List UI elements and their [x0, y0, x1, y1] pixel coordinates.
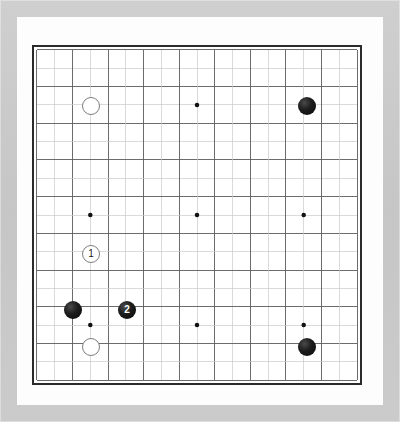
stone-move-number: 2 [124, 305, 129, 315]
white-stone-move-1[interactable]: 1 [82, 245, 100, 263]
black-stone-q16[interactable] [298, 97, 316, 115]
black-stone-q3[interactable] [298, 338, 316, 356]
go-board-screenshot: 12 [0, 0, 400, 422]
go-board[interactable]: 12 [32, 45, 362, 385]
black-stone-c5[interactable] [64, 301, 82, 319]
stones-layer[interactable]: 12 [34, 47, 360, 383]
white-stone-d16[interactable] [82, 97, 100, 115]
black-stone-move-2[interactable]: 2 [118, 301, 136, 319]
white-stone-d3[interactable] [82, 338, 100, 356]
stone-move-number: 1 [88, 249, 93, 259]
